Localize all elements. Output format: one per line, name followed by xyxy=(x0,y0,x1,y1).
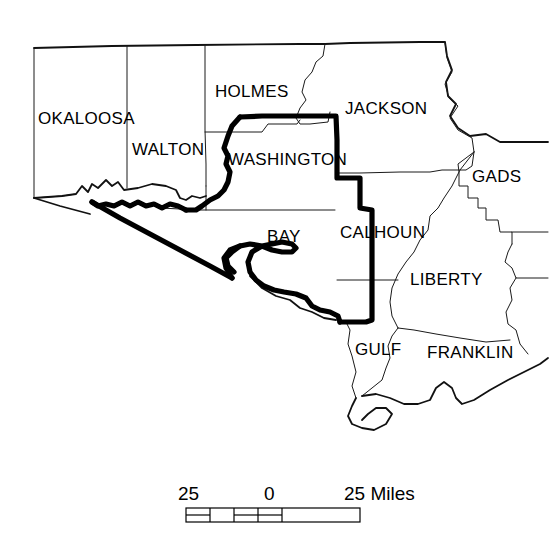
gulf-franklin-divide xyxy=(362,328,398,396)
gulf-coast-west xyxy=(34,198,90,214)
county-label-calhoun: CALHOUN xyxy=(340,223,425,242)
county-label-jackson: JACKSON xyxy=(345,99,427,118)
gadsden-liberty-divide xyxy=(505,244,548,278)
county-map-figure: OKALOOSA WALTON HOLMES JACKSON WASHINGTO… xyxy=(0,0,553,551)
county-label-okaloosa: OKALOOSA xyxy=(38,109,135,128)
walton-holmes-divide xyxy=(205,45,206,186)
county-label-walton: WALTON xyxy=(132,140,204,159)
jackson-south-edge xyxy=(337,152,474,173)
gadsden-west-boundary xyxy=(458,152,512,244)
holmes-jackson-divide xyxy=(296,44,330,124)
barrier-coast-highlight xyxy=(92,202,232,278)
county-label-liberty: LIBERTY xyxy=(410,270,483,289)
gulf-county-coast xyxy=(348,398,392,430)
liberty-franklin-divide xyxy=(398,328,510,342)
holmes-south-edge xyxy=(205,120,300,132)
coastline-group xyxy=(34,180,548,430)
scale-label-left: 25 xyxy=(178,483,199,504)
county-label-gadsden: GADS xyxy=(472,167,521,186)
apalachicola-bay-coast xyxy=(362,358,548,404)
county-label-gulf: GULF xyxy=(355,340,402,359)
choctawhatchee-bay-shore xyxy=(34,180,206,200)
county-label-bay: BAY xyxy=(267,227,301,246)
county-label-franklin: FRANKLIN xyxy=(427,343,513,362)
map-canvas: OKALOOSA WALTON HOLMES JACKSON WASHINGTO… xyxy=(0,0,553,551)
bay-gulf-divide xyxy=(338,320,356,398)
county-label-washington: WASHINGTON xyxy=(228,150,347,169)
scale-label-center: 0 xyxy=(264,483,275,504)
county-label-holmes: HOLMES xyxy=(215,82,289,101)
st-andrew-bay-highlight xyxy=(224,242,340,322)
scale-bar: 25 0 25 Miles xyxy=(178,483,415,522)
washington-county-highlight xyxy=(240,116,372,322)
scale-label-right: 25 Miles xyxy=(344,483,415,504)
